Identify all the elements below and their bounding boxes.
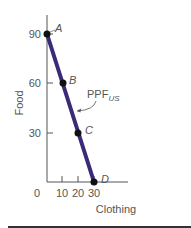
x-axis-label: Clothing bbox=[96, 203, 136, 215]
ppf-annotation-main: PPF bbox=[87, 88, 109, 100]
point-c bbox=[75, 130, 82, 137]
x-tick-label-10: 10 bbox=[56, 187, 68, 199]
x-tick-label-20: 20 bbox=[72, 187, 84, 199]
point-label-a: A bbox=[54, 22, 62, 34]
ppf-line bbox=[47, 34, 94, 182]
x-tick-label-0: 0 bbox=[34, 187, 40, 199]
ppf-annotation-sub: US bbox=[108, 94, 120, 103]
y-tick-label-90: 90 bbox=[29, 28, 41, 40]
y-tick-label-60: 60 bbox=[29, 77, 41, 89]
point-b bbox=[60, 80, 67, 87]
point-d bbox=[91, 179, 98, 186]
point-label-d: D bbox=[101, 173, 109, 185]
y-tick-label-30: 30 bbox=[29, 127, 41, 139]
ppf-chart: 90 60 30 0 10 20 30 Clothing Food A B C … bbox=[0, 0, 191, 228]
x-tick-label-30: 30 bbox=[88, 187, 100, 199]
bottom-rule bbox=[8, 226, 191, 228]
point-label-b: B bbox=[69, 74, 76, 86]
point-a bbox=[44, 31, 51, 38]
ppf-annotation: PPFUS bbox=[87, 88, 120, 103]
point-label-c: C bbox=[85, 124, 93, 136]
arrowhead-icon bbox=[77, 109, 81, 113]
y-axis-label: Food bbox=[13, 90, 25, 115]
